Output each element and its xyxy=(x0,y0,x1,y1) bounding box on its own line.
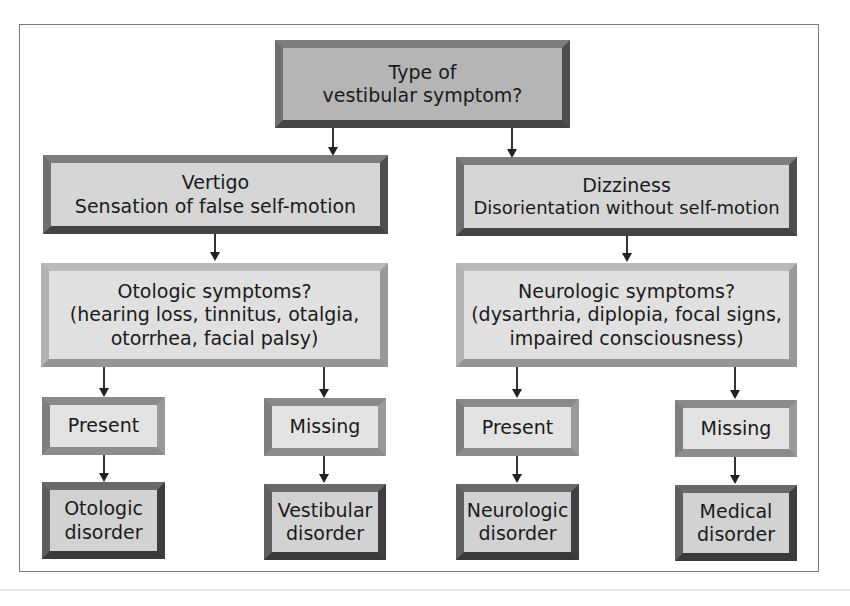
page-divider xyxy=(0,589,850,591)
arrow-down-icon xyxy=(319,474,329,483)
neurologic-disorder-box: Neurologic disorder xyxy=(456,484,579,560)
otologic-question-title: Otologic symptoms? xyxy=(117,280,311,303)
connector-neurologic-missing xyxy=(734,367,736,391)
arrow-down-icon xyxy=(99,473,109,482)
connector-vertigo-otologic xyxy=(214,234,216,253)
vertigo-title: Vertigo xyxy=(182,171,249,194)
root-line-1: Type of xyxy=(389,61,457,84)
connector-otologic-present xyxy=(103,367,105,389)
neurologic-question-line-1: (dysarthria, diplopia, focal signs, xyxy=(471,303,782,326)
dizziness-title: Dizziness xyxy=(582,174,671,197)
arrow-down-icon xyxy=(730,475,740,484)
arrow-down-icon xyxy=(622,253,632,262)
arrow-down-icon xyxy=(99,388,109,397)
otologic-present-box: Present xyxy=(42,397,165,455)
outcome-line-1: Vestibular xyxy=(278,499,373,522)
connector-root-dizziness xyxy=(511,128,513,150)
outcome-line-2: disorder xyxy=(286,522,364,545)
outcome-line-1: Medical xyxy=(700,500,773,523)
outcome-line-2: disorder xyxy=(65,521,143,544)
vestibular-disorder-box: Vestibular disorder xyxy=(264,484,386,560)
connector-present-neurologic-disorder xyxy=(516,456,518,475)
connector-root-vertigo xyxy=(332,128,334,148)
connector-missing-medical-disorder xyxy=(734,457,736,476)
neurologic-question-title: Neurologic symptoms? xyxy=(518,280,735,303)
vertigo-subtitle: Sensation of false self-motion xyxy=(75,195,356,218)
connector-missing-vestibular-disorder xyxy=(323,456,325,475)
outcome-line-1: Otologic xyxy=(64,497,143,520)
connector-present-otologic-disorder xyxy=(103,455,105,474)
neurologic-present-box: Present xyxy=(456,399,579,456)
otologic-question-line-1: (hearing loss, tinnitus, otalgia, xyxy=(70,303,359,326)
outcome-line-2: disorder xyxy=(697,523,775,546)
arrow-down-icon xyxy=(512,474,522,483)
outcome-line-1: Neurologic xyxy=(467,499,569,522)
dizziness-box: Dizziness Disorientation without self-mo… xyxy=(456,157,797,236)
connector-dizziness-neurologic xyxy=(626,236,628,254)
outcome-line-2: disorder xyxy=(479,522,557,545)
arrow-down-icon xyxy=(730,390,740,399)
neurologic-missing-box: Missing xyxy=(675,400,797,457)
neurologic-symptoms-box: Neurologic symptoms? (dysarthria, diplop… xyxy=(456,263,797,367)
otologic-symptoms-box: Otologic symptoms? (hearing loss, tinnit… xyxy=(41,263,388,367)
answer-label: Present xyxy=(68,414,139,437)
arrow-down-icon xyxy=(319,389,329,398)
answer-label: Missing xyxy=(290,415,361,438)
dizziness-subtitle: Disorientation without self-motion xyxy=(473,197,779,219)
otologic-disorder-box: Otologic disorder xyxy=(42,482,165,559)
medical-disorder-box: Medical disorder xyxy=(675,485,797,561)
otologic-question-line-2: otorrhea, facial palsy) xyxy=(111,327,319,350)
answer-label: Missing xyxy=(701,417,772,440)
answer-label: Present xyxy=(482,416,553,439)
neurologic-question-line-2: impaired consciousness) xyxy=(509,327,743,350)
root-line-2: vestibular symptom? xyxy=(323,84,523,107)
connector-neurologic-present xyxy=(516,367,518,390)
otologic-missing-box: Missing xyxy=(264,398,386,456)
arrow-down-icon xyxy=(512,389,522,398)
root-question-box: Type of vestibular symptom? xyxy=(275,40,570,128)
arrow-down-icon xyxy=(210,252,220,261)
connector-otologic-missing xyxy=(323,367,325,390)
vertigo-box: Vertigo Sensation of false self-motion xyxy=(43,155,388,234)
